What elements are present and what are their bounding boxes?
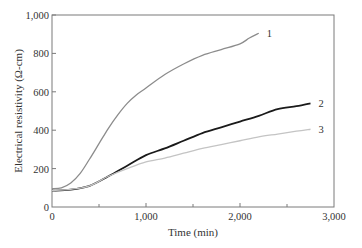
x-axis-label: Time (min) xyxy=(168,226,218,239)
resistivity-chart: 02004006008001,000 01,0002,0003,000 123 … xyxy=(0,0,362,248)
y-tick-label: 0 xyxy=(44,202,49,213)
y-tick-label: 800 xyxy=(33,48,49,59)
series-line-2 xyxy=(52,103,311,190)
x-tick-label: 2,000 xyxy=(228,211,252,222)
series-labels: 123 xyxy=(267,28,324,135)
x-tick-label: 0 xyxy=(49,211,54,222)
x-tick-label: 1,000 xyxy=(134,211,158,222)
y-tick-label: 1,000 xyxy=(25,10,49,21)
series-line-1 xyxy=(52,33,259,189)
series-label-3: 3 xyxy=(319,124,324,135)
y-axis-label: Electrical resistivity (Ω-cm) xyxy=(12,49,25,173)
series-label-2: 2 xyxy=(319,98,324,109)
y-tick-label: 600 xyxy=(33,87,49,98)
series-line-3 xyxy=(52,129,311,190)
series-label-1: 1 xyxy=(267,28,272,39)
x-axis-ticks: 01,0002,0003,000 xyxy=(49,203,345,222)
y-tick-label: 200 xyxy=(33,164,49,175)
plot-frame xyxy=(52,15,334,207)
x-tick-label: 3,000 xyxy=(322,211,346,222)
y-axis-ticks: 02004006008001,000 xyxy=(25,10,56,213)
y-tick-label: 400 xyxy=(33,125,49,136)
series-lines xyxy=(52,33,311,190)
